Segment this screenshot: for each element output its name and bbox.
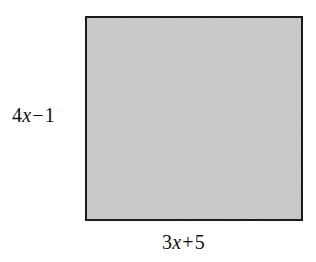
width-dimension-label: 3x+5: [162, 232, 205, 252]
height-coefficient: 4: [12, 104, 22, 126]
height-constant: 1: [45, 104, 55, 126]
rectangle-shape: [85, 16, 303, 221]
height-dimension-label: 4x−1: [12, 105, 55, 125]
width-operator: +: [181, 231, 194, 253]
height-operator: −: [31, 104, 44, 126]
rectangle-texture: [87, 18, 301, 219]
height-variable: x: [22, 104, 31, 126]
width-coefficient: 3: [162, 231, 172, 253]
rectangle-svg: [85, 16, 303, 221]
width-variable: x: [172, 231, 181, 253]
width-constant: 5: [195, 231, 205, 253]
geometry-figure: 4x−1 3x+5: [0, 0, 316, 262]
